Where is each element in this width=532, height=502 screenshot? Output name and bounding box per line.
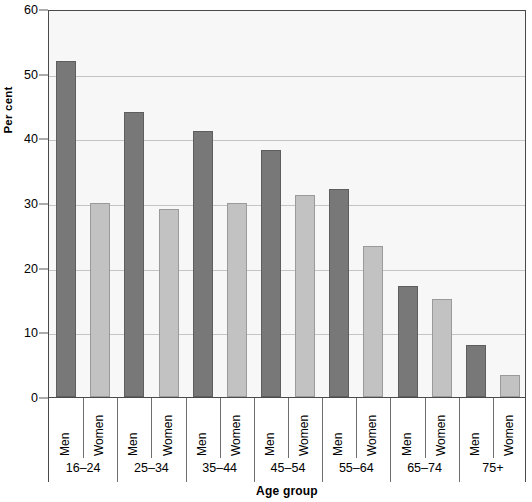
plot-area <box>48 10 526 398</box>
age-group-label: 75+ <box>459 462 527 475</box>
x-axis-title: Age group <box>48 484 526 498</box>
bar-chart: Per cent 0102030405060 MenWomenMenWomenM… <box>0 0 532 502</box>
bar-men <box>124 112 144 397</box>
bar-women <box>295 195 315 397</box>
series-label-men: Men <box>196 433 208 456</box>
y-axis-tick-label: 40 <box>4 133 38 146</box>
bars-layer <box>49 11 525 397</box>
series-label-men: Men <box>469 433 481 456</box>
series-label-men: Men <box>264 433 276 456</box>
bar-women <box>432 299 452 397</box>
age-group-label: 65–74 <box>390 462 458 475</box>
series-separator <box>288 398 289 458</box>
y-axis-tick-label: 30 <box>4 198 38 211</box>
y-axis-tick-mark <box>39 74 48 75</box>
series-label-men: Men <box>332 433 344 456</box>
series-label-women: Women <box>366 415 378 456</box>
y-axis-tick-mark <box>39 204 48 205</box>
series-label-men: Men <box>59 433 71 456</box>
y-axis-tick-label: 60 <box>4 4 38 17</box>
bar-women <box>227 203 247 397</box>
y-axis-tick-label: 50 <box>4 68 38 81</box>
y-axis-tick-label: 20 <box>4 262 38 275</box>
series-label-band: MenWomenMenWomenMenWomenMenWomenMenWomen… <box>48 398 526 458</box>
series-separator <box>390 398 391 458</box>
series-separator <box>493 398 494 458</box>
series-label-women: Women <box>298 415 310 456</box>
bar-women <box>90 203 110 397</box>
series-separator <box>83 398 84 458</box>
series-label-women: Women <box>93 415 105 456</box>
y-axis-tick-mark <box>39 10 48 11</box>
y-axis-tick-mark <box>39 398 48 399</box>
bar-men <box>329 189 349 397</box>
age-group-separator <box>117 458 118 482</box>
bar-men <box>466 345 486 397</box>
bar-women <box>159 209 179 397</box>
age-group-separator <box>322 458 323 482</box>
series-separator <box>254 398 255 458</box>
series-separator <box>220 398 221 458</box>
bar-women <box>500 375 520 397</box>
age-group-label: 25–34 <box>117 462 185 475</box>
series-label-women: Women <box>230 415 242 456</box>
y-axis-tick-mark <box>39 139 48 140</box>
series-label-women: Women <box>503 415 515 456</box>
y-axis-tick-label: 10 <box>4 327 38 340</box>
age-group-separator <box>186 458 187 482</box>
age-group-label: 55–64 <box>322 462 390 475</box>
age-group-separator <box>390 458 391 482</box>
y-axis-tick-label: 0 <box>4 392 38 405</box>
bar-men <box>56 61 76 397</box>
series-separator <box>117 398 118 458</box>
age-group-label: 45–54 <box>254 462 322 475</box>
bar-women <box>363 246 383 397</box>
series-separator <box>425 398 426 458</box>
series-label-men: Men <box>401 433 413 456</box>
series-separator <box>151 398 152 458</box>
age-group-label: 35–44 <box>186 462 254 475</box>
series-separator <box>322 398 323 458</box>
age-group-separator <box>459 458 460 482</box>
series-separator <box>459 398 460 458</box>
series-label-women: Women <box>435 415 447 456</box>
series-label-men: Men <box>127 433 139 456</box>
bar-men <box>261 150 281 397</box>
y-axis-tick-mark <box>39 333 48 334</box>
age-group-label: 16–24 <box>49 462 117 475</box>
series-separator <box>356 398 357 458</box>
y-axis-tick-mark <box>39 268 48 269</box>
age-group-band: 16–2425–3435–4445–5455–6465–7475+ <box>48 458 526 482</box>
y-axis: 0102030405060 <box>0 0 48 410</box>
bar-men <box>398 286 418 397</box>
bar-men <box>193 131 213 397</box>
series-separator <box>186 398 187 458</box>
series-label-women: Women <box>162 415 174 456</box>
age-group-separator <box>254 458 255 482</box>
